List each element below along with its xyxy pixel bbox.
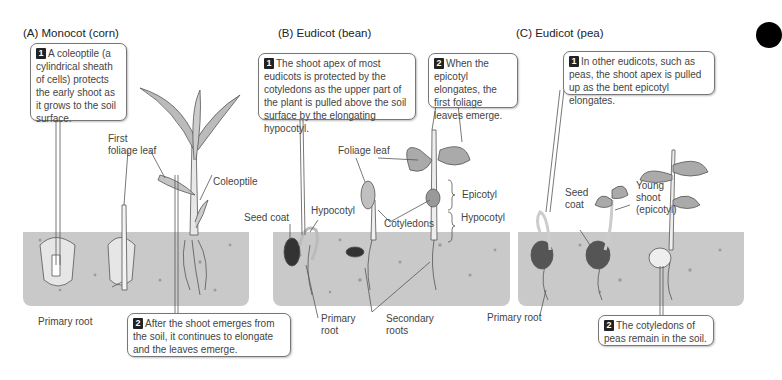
label-epicotyl: Epicotyl	[462, 189, 497, 201]
label-primary-root-c: Primary root	[487, 312, 541, 324]
callout-text: After the shoot emerges from the soil, i…	[133, 318, 275, 355]
label-primary-root-b: Primary root	[321, 313, 355, 337]
step-badge: 1	[264, 58, 274, 69]
step-badge: 2	[604, 320, 614, 331]
step-badge: 2	[434, 58, 444, 69]
callout-text: The cotyledons of peas remain in the soi…	[604, 320, 707, 344]
label-cotyledons: Cotyledons	[384, 218, 434, 230]
label-hypocotyl-b-left: Hypocotyl	[311, 205, 355, 217]
label-foliage-leaf: Foliage leaf	[338, 145, 390, 157]
label-seed-coat-b: Seed coat	[244, 212, 289, 224]
step-badge: 1	[36, 48, 46, 59]
soil-particles	[39, 239, 722, 294]
step-badge: 2	[133, 318, 143, 329]
pea-seedlings	[531, 150, 708, 300]
callout-text: A coleoptile (a cylindrical sheath of ce…	[36, 48, 116, 124]
label-seed-coat-c: Seed coat	[565, 187, 588, 211]
step-badge: 1	[569, 56, 579, 67]
label-hypocotyl-b-right: Hypocotyl	[461, 212, 505, 224]
callout-a-2: 2After the shoot emerges from the soil, …	[127, 313, 291, 357]
label-secondary-roots: Secondary roots	[386, 313, 434, 337]
callout-text: When the epicotyl elongates, the first f…	[434, 58, 502, 121]
label-young-shoot: Young shoot (epicotyl)	[636, 180, 677, 216]
label-coleoptile: Coleoptile	[213, 176, 257, 188]
callout-a-1: 1A coleoptile (a cylindrical sheath of c…	[30, 43, 127, 121]
callout-b-2: 2When the epicotyl elongates, the first …	[428, 53, 518, 108]
brackets	[448, 180, 455, 242]
callout-c-1: 1In other eudicots, such as peas, the sh…	[563, 51, 715, 95]
callout-b-1: 1The shoot apex of most eudicots is prot…	[258, 53, 416, 120]
label-first-foliage-leaf: First foliage leaf	[108, 133, 156, 157]
callout-c-2: 2The cotyledons of peas remain in the so…	[598, 315, 714, 346]
label-primary-root-a: Primary root	[38, 316, 92, 328]
